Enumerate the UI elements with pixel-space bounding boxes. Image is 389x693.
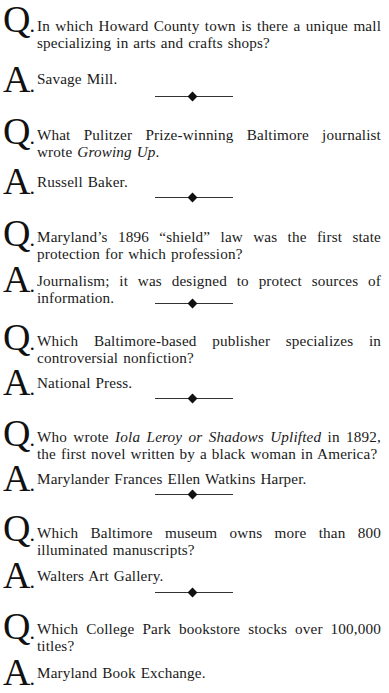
question-marker: Q. [3, 2, 35, 42]
question-marker: Q. [3, 114, 35, 154]
answer-marker: A. [3, 558, 35, 598]
answer-marker: A. [3, 164, 35, 204]
answer-text: National Press. [37, 374, 381, 391]
question-marker: Q. [3, 216, 35, 256]
divider-icon [155, 299, 233, 309]
question-marker: Q. [3, 416, 35, 456]
question-marker: Q. [3, 609, 35, 649]
question-marker: Q. [3, 320, 35, 360]
answer-text: Savage Mill. [37, 70, 381, 87]
divider-icon [155, 92, 233, 102]
answer-marker: A. [3, 461, 35, 501]
divider-icon [155, 193, 233, 203]
question-marker: Q. [3, 511, 35, 551]
answer-marker: A. [3, 62, 35, 102]
answer-text: Marylander Frances Ellen Watkins Harper. [37, 470, 381, 487]
divider-icon [155, 588, 233, 598]
answer-marker: A. [3, 365, 35, 405]
answer-marker: A. [3, 262, 35, 302]
answer-text: Russell Baker. [37, 173, 381, 190]
question-text: Who wrote Iola Leroy or Shadows Uplifted… [37, 428, 381, 462]
question-text: Which College Park bookstore stocks over… [37, 620, 381, 654]
question-text: Which Baltimore-based publisher speciali… [37, 332, 381, 366]
answer-text: Walters Art Gallery. [37, 567, 381, 584]
divider-icon [155, 490, 233, 500]
answer-marker: A. [3, 655, 35, 693]
divider-icon [155, 394, 233, 404]
question-text: Which Baltimore museum owns more than 80… [37, 524, 381, 558]
answer-text: Maryland Book Exchange. [37, 664, 381, 681]
question-text: In which Howard County town is there a u… [37, 17, 381, 51]
question-text: Maryland’s 1896 “shield” law was the fir… [37, 228, 381, 262]
question-text: What Pulitzer Prize-winning Baltimore jo… [37, 126, 381, 160]
